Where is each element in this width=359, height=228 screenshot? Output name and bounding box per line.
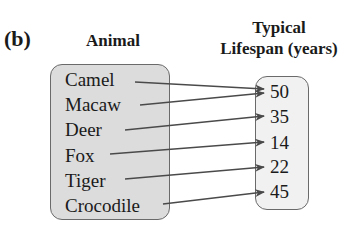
arrow-camel-to-50 <box>135 82 264 89</box>
arrow-tiger-to-22 <box>125 167 264 179</box>
arrow-macaw-to-50 <box>140 93 264 105</box>
mapping-arrows <box>0 0 359 228</box>
arrow-deer-to-35 <box>125 116 264 130</box>
arrow-crocodile-to-45 <box>163 192 264 204</box>
arrow-fox-to-14 <box>110 142 264 154</box>
